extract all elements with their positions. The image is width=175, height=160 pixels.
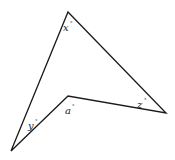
angle-z-label: z ° — [136, 97, 147, 110]
svg-text:y: y — [27, 120, 34, 131]
svg-text:z: z — [136, 99, 143, 110]
svg-text:°: ° — [72, 103, 75, 109]
svg-text:°: ° — [70, 20, 73, 26]
quadrilateral-diagram: x ° z ° a ° y ° — [0, 0, 175, 160]
svg-text:°: ° — [144, 97, 147, 103]
angle-y-label: y ° — [27, 118, 38, 131]
quadrilateral-outline — [11, 12, 166, 151]
svg-text:a: a — [65, 105, 71, 116]
angle-a-label: a ° — [65, 103, 75, 116]
angle-x-label: x ° — [63, 20, 73, 33]
svg-text:x: x — [63, 22, 69, 33]
svg-text:°: ° — [35, 118, 38, 124]
